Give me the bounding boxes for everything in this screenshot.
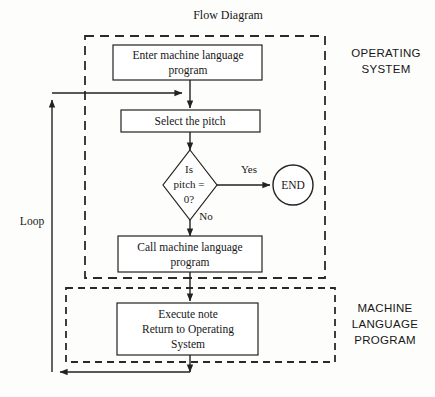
diagram-canvas: Flow Diagram OPERATING SYSTEM MACHINE LA…	[0, 0, 435, 397]
node-execute-note-line2: Return to Operating	[142, 323, 234, 336]
region-machine-language-label-line3: PROGRAM	[354, 334, 416, 346]
node-decision-pitch-line1: Is	[185, 163, 193, 175]
node-enter-program-line1: Enter machine language	[132, 49, 243, 62]
region-machine-language-label-line1: MACHINE	[357, 302, 412, 314]
node-execute-note-line1: Execute note	[158, 308, 218, 320]
region-machine-language-label-line2: LANGUAGE	[352, 318, 418, 330]
node-enter-program-line2: program	[169, 64, 208, 77]
region-operating-system-label-line1: OPERATING	[351, 47, 421, 59]
edge-label-loop: Loop	[20, 215, 45, 228]
edge-label-no: No	[199, 210, 213, 222]
edge-label-yes: Yes	[241, 163, 257, 175]
node-execute-note-line3: System	[171, 338, 205, 351]
node-decision-pitch-line2: pitch =	[174, 178, 205, 190]
flow-diagram-figure: Flow Diagram OPERATING SYSTEM MACHINE LA…	[0, 0, 435, 397]
node-end-terminal-label: END	[281, 179, 305, 191]
figure-title: Flow Diagram	[193, 8, 263, 22]
node-call-program-line1: Call machine language	[137, 241, 242, 254]
node-decision-pitch-line3: 0?	[184, 193, 195, 205]
region-operating-system-label-line2: SYSTEM	[361, 63, 410, 75]
node-select-pitch-label: Select the pitch	[155, 115, 226, 128]
node-call-program-line2: program	[171, 256, 210, 269]
